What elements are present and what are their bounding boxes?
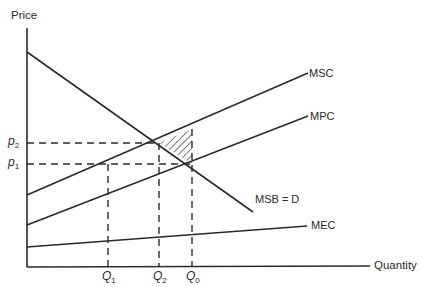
mpc-label: MPC [310,111,334,122]
quantity-label-q1: Q1 [102,270,116,282]
mpc-curve [27,116,308,225]
deadweight-loss-area [159,129,192,164]
y-axis-label: Price [11,10,37,22]
price-label-p1: p1 [8,156,19,168]
x-axis [27,266,370,267]
quantity-label-q0: Q0 [186,270,200,282]
externality-diagram [0,0,423,287]
msb-demand-curve [27,52,253,212]
quantity-label-q2: Q2 [153,270,167,282]
msb-label: MSB = D [255,194,299,205]
msc-label: MSC [309,68,333,79]
msc-curve [27,73,308,195]
mec-label: MEC [311,220,335,231]
mec-curve [27,226,307,247]
price-label-p2: p2 [8,135,19,147]
x-axis-label: Quantity [374,260,417,272]
